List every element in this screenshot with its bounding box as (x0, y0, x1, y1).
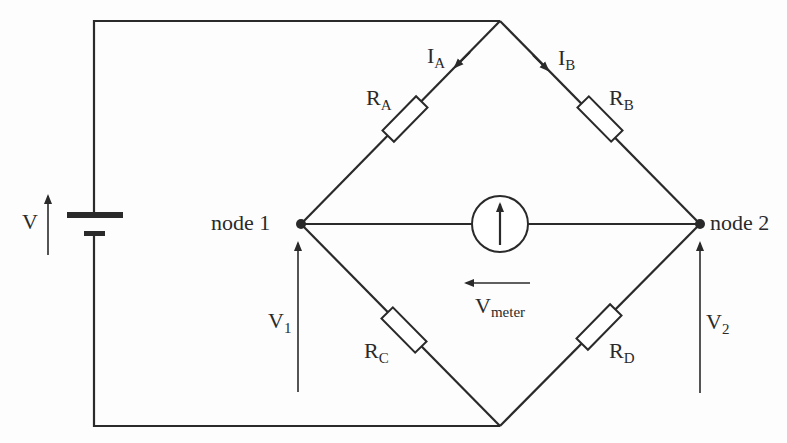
node-1-dot (296, 219, 306, 229)
label-v1: V1 (268, 308, 291, 336)
label-ia: IA (427, 43, 445, 71)
label-ib: IB (558, 45, 575, 73)
arrow-ib-icon (533, 55, 548, 70)
battery-icon (67, 212, 123, 236)
node-2-dot (695, 219, 705, 229)
label-node1: node 1 (211, 210, 270, 235)
label-rd: RD (609, 338, 635, 366)
voltage-arrows (48, 196, 700, 393)
label-rb: RB (609, 85, 634, 113)
arrow-ia-icon (455, 52, 470, 67)
label-v: V (22, 209, 38, 234)
label-vmeter: Vmeter (475, 293, 525, 320)
top-wire (94, 21, 500, 215)
label-v2: V2 (706, 309, 729, 337)
label-ra: RA (366, 85, 392, 113)
label-node2: node 2 (710, 210, 769, 235)
wheatstone-bridge-diagram: V node 1 node 2 RA RB RC RD IA IB V1 V2 … (0, 0, 787, 443)
current-arrows (455, 52, 548, 70)
circuit-svg: V node 1 node 2 RA RB RC RD IA IB V1 V2 … (0, 0, 787, 443)
resistor-rc-icon (381, 307, 426, 352)
wires (94, 21, 700, 426)
voltmeter-icon (472, 196, 528, 252)
label-rc: RC (364, 338, 389, 366)
bottom-wire (94, 233, 500, 426)
